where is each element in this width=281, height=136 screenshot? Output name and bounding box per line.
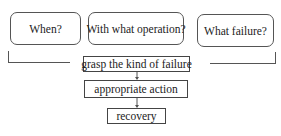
question-when-box: When? (10, 12, 81, 45)
right-bracket-vertical (275, 52, 276, 64)
arrow-down-icon (134, 98, 140, 108)
question-failure-label: What failure? (204, 25, 267, 37)
step-recovery-label: recovery (116, 110, 156, 122)
question-when-label: When? (29, 23, 62, 35)
step-action-label: appropriate action (94, 83, 177, 95)
left-bracket-horizontal (8, 62, 70, 63)
arrow-down-icon (134, 72, 140, 80)
question-failure-box: What failure? (197, 14, 274, 47)
step-grasp-box: grasp the kind of failure (83, 56, 190, 72)
step-action-box: appropriate action (84, 80, 188, 98)
step-grasp-label: grasp the kind of failure (81, 58, 192, 70)
step-recovery-box: recovery (107, 108, 166, 124)
question-operation-label: With what operation? (86, 23, 185, 35)
question-operation-box: With what operation? (88, 12, 184, 45)
right-bracket-horizontal (210, 63, 276, 64)
